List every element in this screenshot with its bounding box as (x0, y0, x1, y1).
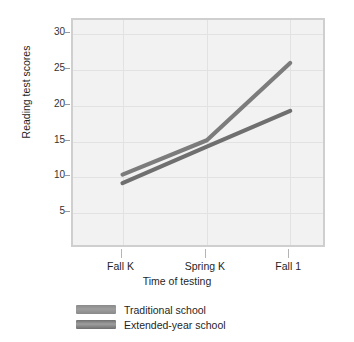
y-tick-mark-25 (65, 68, 70, 69)
y-tick-mark-30 (65, 32, 70, 33)
legend-swatch-0 (76, 305, 116, 314)
legend-swatch-1 (76, 320, 116, 329)
y-tick-label-25: 25 (19, 63, 65, 73)
legend-item-1[interactable]: Extended-year school (76, 318, 226, 331)
x-tick-label-1: Spring K (185, 260, 225, 272)
legend-item-0[interactable]: Traditional school (76, 303, 226, 316)
y-tick-mark-5 (65, 211, 70, 212)
x-tick-mark-1 (205, 249, 206, 258)
y-tick-mark-15 (65, 140, 70, 141)
plot-area (71, 18, 325, 247)
legend-label-0: Traditional school (124, 304, 206, 316)
plot-inner (73, 20, 323, 245)
chart-legend: Traditional schoolExtended-year school (76, 303, 226, 333)
series-line-0 (123, 63, 291, 175)
y-tick-label-5: 5 (19, 206, 65, 216)
reading-test-scores-line-chart: Reading test scores 51015202530 Fall KSp… (0, 0, 354, 342)
y-tick-label-30: 30 (19, 27, 65, 37)
y-tick-label-15: 15 (19, 135, 65, 145)
x-axis-title: Time of testing (0, 275, 354, 287)
x-tick-mark-2 (288, 249, 289, 258)
x-tick-mark-0 (121, 249, 122, 258)
y-tick-mark-20 (65, 104, 70, 105)
series-lines (73, 20, 323, 245)
y-tick-label-20: 20 (19, 99, 65, 109)
x-tick-label-2: Fall 1 (275, 260, 301, 272)
x-tick-label-0: Fall K (107, 260, 134, 272)
y-tick-mark-10 (65, 175, 70, 176)
legend-label-1: Extended-year school (124, 319, 226, 331)
y-tick-label-10: 10 (19, 170, 65, 180)
series-line-1 (123, 111, 291, 183)
